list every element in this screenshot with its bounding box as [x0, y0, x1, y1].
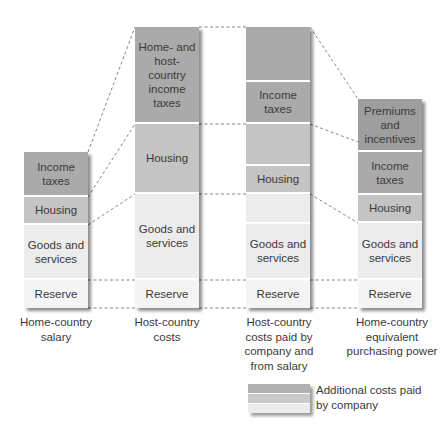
segment-income-taxes: Income taxes: [24, 152, 88, 197]
legend-swatch: [248, 384, 310, 413]
column-home-country-equivalent: Premiums and incentives Income taxes Hou…: [358, 99, 422, 308]
segment-additional-taxes: [246, 27, 310, 82]
segment-housing: Housing: [135, 124, 199, 194]
column-host-country-costs-paid: Income taxes Housing Goods and services …: [246, 27, 310, 308]
segment-reserve: Reserve: [246, 280, 310, 308]
segment-income-taxes: Income taxes: [246, 82, 310, 124]
segment-income-taxes: Income taxes: [358, 152, 422, 195]
segment-additional-goods: [246, 194, 310, 224]
legend-text: Additional costs paid by company: [316, 383, 426, 413]
column-home-country-salary: Income taxes Housing Goods and services …: [24, 152, 88, 308]
segment-goods-services: Goods and services: [135, 194, 199, 280]
segment-housing: Housing: [358, 195, 422, 223]
label-home-country-salary: Home-country salary: [6, 315, 106, 344]
segment-housing: Housing: [246, 166, 310, 194]
segment-goods-services: Goods and services: [24, 225, 88, 280]
segment-reserve: Reserve: [358, 280, 422, 308]
label-home-country-equivalent: Home-country equivalent purchasing power: [345, 315, 439, 359]
label-host-country-costs-paid: Host-country costs paid by company and f…: [236, 315, 322, 373]
segment-reserve: Reserve: [135, 280, 199, 308]
segment-housing: Housing: [24, 197, 88, 225]
segment-reserve: Reserve: [24, 280, 88, 308]
segment-additional-housing: [246, 124, 310, 166]
segment-goods-services: Goods and services: [246, 224, 310, 280]
segment-goods-services: Goods and services: [358, 223, 422, 280]
segment-income-taxes: Home- and host- country income taxes: [135, 27, 199, 124]
column-host-country-costs: Home- and host- country income taxes Hou…: [135, 27, 199, 308]
segment-premiums: Premiums and incentives: [358, 99, 422, 152]
label-host-country-costs: Host-country costs: [125, 315, 209, 344]
